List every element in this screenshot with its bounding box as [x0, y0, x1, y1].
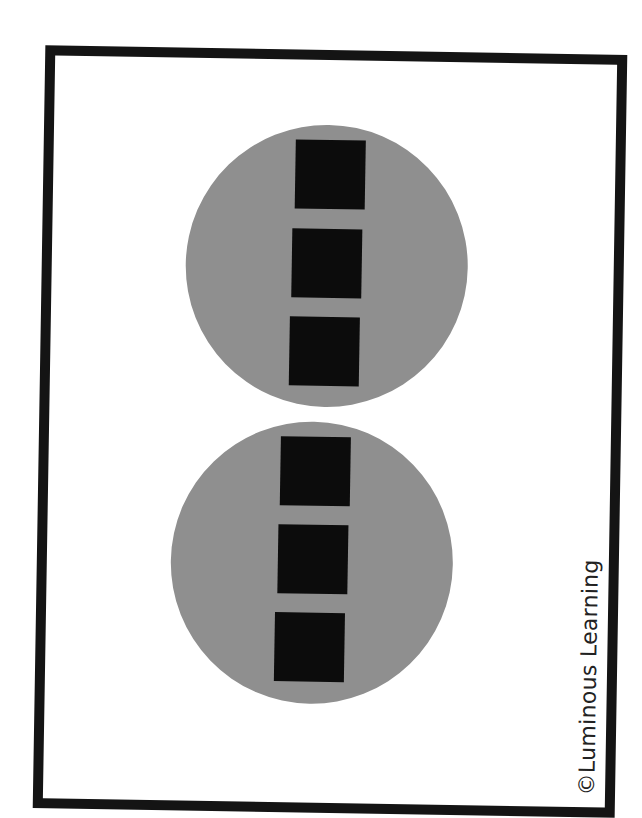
- square-6: [274, 612, 345, 682]
- square-4: [280, 436, 351, 506]
- square-3: [289, 316, 360, 386]
- square-1: [295, 139, 366, 209]
- square-2: [291, 228, 362, 298]
- picture-card: ©Luminous Learning: [33, 45, 628, 818]
- copyright-credit: ©Luminous Learning: [574, 559, 603, 795]
- bottom-circle: [169, 419, 456, 706]
- top-circle: [183, 123, 470, 410]
- square-5: [277, 524, 348, 594]
